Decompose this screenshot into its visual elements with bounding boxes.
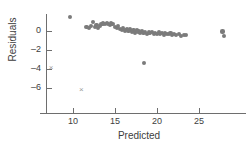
data-point bbox=[184, 33, 188, 37]
outlier-cross-marker: × bbox=[49, 64, 54, 72]
residual-scatter-plot: Residuals Predicted 0–2–4–6 10152025 ×× bbox=[0, 0, 247, 151]
plot-area: ×× bbox=[0, 0, 247, 151]
data-point bbox=[220, 29, 224, 33]
data-point bbox=[222, 34, 226, 38]
data-point bbox=[142, 61, 146, 65]
data-point bbox=[68, 15, 72, 19]
outlier-cross-marker: × bbox=[79, 86, 84, 94]
